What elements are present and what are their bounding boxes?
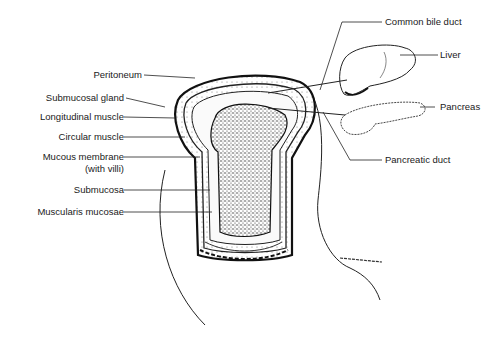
- pancreas-illustration: [341, 102, 425, 134]
- label-submucosal-gland: Submucosal gland: [24, 92, 124, 103]
- liver-illustration: [340, 45, 416, 95]
- right-leader-lines: [320, 22, 438, 160]
- label-peritoneum: Peritoneum: [52, 69, 142, 80]
- label-circular-muscle: Circular muscle: [24, 131, 124, 142]
- label-mucous-membrane: Mucous membrane: [14, 151, 124, 162]
- label-pancreatic-duct: Pancreatic duct: [385, 154, 450, 165]
- label-longitudinal-muscle: Longitudinal muscle: [14, 111, 124, 122]
- label-mucous-membrane-sub: (with villi): [14, 163, 124, 174]
- label-submucosa: Submucosa: [14, 184, 124, 195]
- label-common-bile-duct: Common bile duct: [385, 16, 462, 27]
- label-pancreas: Pancreas: [440, 101, 480, 112]
- label-liver: Liver: [440, 49, 461, 60]
- label-muscularis-mucosae: Muscularis mucosae: [4, 206, 124, 217]
